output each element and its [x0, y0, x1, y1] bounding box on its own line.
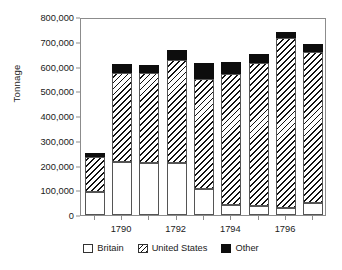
y-axis-tick-label: 500,000	[4, 87, 74, 97]
bar-segment-britain	[194, 189, 214, 215]
bar-segment-other	[139, 65, 159, 72]
x-axis-tick-mark	[258, 216, 259, 220]
bar-segment-other	[167, 50, 187, 60]
bar-segment-united-states	[112, 73, 132, 162]
plot-area	[80, 18, 326, 216]
bar-segment-united-states	[85, 157, 105, 192]
bar-segment-united-states	[167, 60, 187, 163]
y-axis-tick-label: 800,000	[4, 13, 74, 23]
legend-label: Britain	[97, 243, 123, 253]
x-axis-tick-mark	[148, 216, 149, 220]
bar-segment-britain	[167, 163, 187, 215]
x-axis-tick-label: 1794	[220, 224, 241, 234]
x-axis-tick-mark	[176, 216, 177, 220]
x-axis-tick-mark	[121, 216, 122, 220]
white-square-icon	[83, 244, 93, 253]
legend-label: United States	[152, 243, 208, 253]
x-axis-tick-mark	[203, 216, 204, 220]
x-axis-tick-mark	[94, 216, 95, 220]
tonnage-stacked-bar-chart: Tonnage 0100,000200,000300,000400,000500…	[0, 0, 342, 270]
bar-segment-other	[221, 62, 241, 74]
x-axis-tick-mark	[230, 216, 231, 220]
bar-segment-britain	[112, 162, 132, 215]
bar-1796	[276, 17, 296, 215]
bar-segment-britain	[303, 203, 323, 215]
bar-segment-other	[249, 54, 269, 63]
x-axis-tick-label: 1790	[111, 224, 132, 234]
bar-1793	[194, 17, 214, 215]
y-axis-tick-label: 0	[4, 211, 74, 221]
y-axis-tick-label: 400,000	[4, 112, 74, 122]
bar-segment-united-states	[221, 74, 241, 205]
x-axis-tick-label: 1792	[165, 224, 186, 234]
bar-1790	[112, 17, 132, 215]
bar-1794	[221, 17, 241, 215]
bar-segment-united-states	[194, 79, 214, 189]
bar-1791	[139, 17, 159, 215]
y-axis-tick-label: 700,000	[4, 38, 74, 48]
x-axis-tick-label: 1796	[275, 224, 296, 234]
bar-segment-britain	[276, 208, 296, 215]
bar-1792	[167, 17, 187, 215]
bar-segment-united-states	[276, 38, 296, 208]
bar-segment-other	[112, 64, 132, 73]
legend-item-britain[interactable]: Britain	[83, 243, 123, 253]
y-axis-tick-label: 200,000	[4, 162, 74, 172]
bar-segment-united-states	[249, 63, 269, 207]
black-square-icon	[221, 244, 231, 253]
hatched-square-icon	[138, 244, 148, 253]
bar-segment-britain	[139, 163, 159, 215]
chart-legend: BritainUnited StatesOther	[0, 243, 342, 253]
bar-segment-other	[276, 32, 296, 38]
y-axis-tick-label: 100,000	[4, 186, 74, 196]
bar-1797	[303, 17, 323, 215]
bar-segment-britain	[85, 192, 105, 216]
y-axis-tick-label: 300,000	[4, 137, 74, 147]
bar-1789	[85, 17, 105, 215]
legend-item-other[interactable]: Other	[221, 243, 258, 253]
bar-segment-britain	[221, 205, 241, 215]
bar-segment-britain	[249, 206, 269, 215]
bar-segment-other	[85, 153, 105, 157]
y-axis-tick-label: 600,000	[4, 63, 74, 73]
bar-segment-other	[194, 63, 214, 79]
bar-1795	[249, 17, 269, 215]
bar-segment-other	[303, 44, 323, 51]
legend-label: Other	[235, 243, 258, 253]
x-axis-tick-mark	[312, 216, 313, 220]
bar-segment-united-states	[139, 73, 159, 163]
x-axis-tick-mark	[285, 216, 286, 220]
bar-segment-united-states	[303, 52, 323, 203]
legend-item-united-states[interactable]: United States	[138, 243, 208, 253]
